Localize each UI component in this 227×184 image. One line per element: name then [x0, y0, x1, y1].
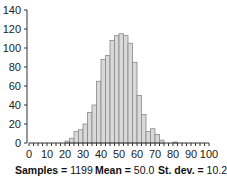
histogram-bar	[83, 124, 88, 143]
y-tick-label: 120	[3, 23, 21, 35]
x-axis: 0102030405060708090100	[26, 143, 218, 160]
y-tick-label: 60	[9, 80, 21, 92]
histogram-bar	[137, 96, 142, 144]
samples-value: 1199	[70, 164, 93, 176]
stdev-stat: St. dev. = 10.2	[158, 164, 227, 176]
histogram-bar	[151, 129, 156, 143]
x-tick-label: 10	[41, 148, 53, 160]
y-tick-label: 140	[3, 4, 21, 16]
mean-value: 50.0	[134, 164, 154, 176]
histogram-bar	[128, 43, 133, 143]
histogram-bar	[106, 56, 111, 143]
histogram-chart: 020406080100120140 010203040506070809010…	[0, 0, 227, 164]
histogram-bar	[79, 130, 84, 143]
mean-label: Mean	[95, 164, 122, 176]
x-tick-label: 20	[59, 148, 71, 160]
histogram-bar	[133, 62, 138, 143]
x-tick-label: 30	[77, 148, 89, 160]
histogram-bar	[124, 36, 129, 143]
x-tick-label: 50	[113, 148, 125, 160]
x-tick-label: 100	[200, 148, 218, 160]
y-tick-label: 20	[9, 118, 21, 130]
stdev-value: 10.2	[207, 164, 227, 176]
x-tick-label: 70	[149, 148, 161, 160]
histogram-bar	[142, 115, 147, 144]
x-tick-label: 0	[26, 148, 32, 160]
x-tick-label: 60	[131, 148, 143, 160]
histogram-bar	[155, 134, 160, 143]
y-axis: 020406080100120140	[3, 4, 27, 149]
y-tick-label: 80	[9, 61, 21, 73]
histogram-bar	[146, 132, 151, 143]
histogram-bar	[97, 81, 102, 143]
x-tick-label: 80	[167, 148, 179, 160]
samples-stat: Samples = 1199	[15, 164, 93, 176]
samples-label: Samples	[15, 164, 58, 176]
histogram-bar	[92, 105, 97, 143]
histogram-bar	[88, 113, 93, 143]
histogram-bar	[70, 138, 75, 143]
mean-stat: Mean = 50.0	[95, 164, 154, 176]
histogram-bars	[65, 34, 178, 143]
histogram-bar	[110, 40, 115, 143]
y-tick-label: 40	[9, 99, 21, 111]
histogram-bar	[74, 132, 79, 143]
x-tick-label: 40	[95, 148, 107, 160]
x-tick-label: 90	[185, 148, 197, 160]
y-tick-label: 100	[3, 42, 21, 54]
histogram-bar	[115, 36, 120, 143]
stdev-label: St. dev.	[158, 164, 195, 176]
histogram-bar	[119, 34, 124, 143]
y-tick-label: 0	[15, 137, 21, 149]
histogram-bar	[101, 59, 106, 143]
